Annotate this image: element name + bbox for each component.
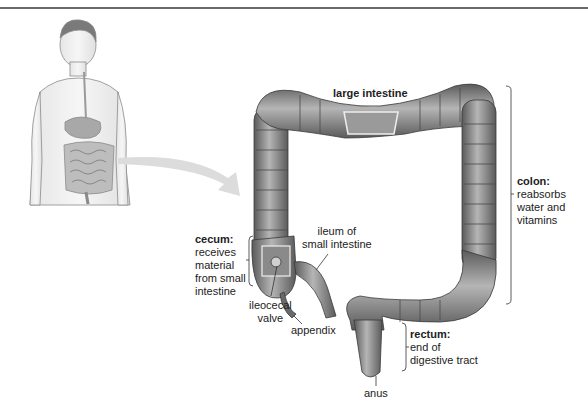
cecum-desc-2: material <box>195 259 246 272</box>
cecum-label: cecum: receives material from small inte… <box>195 233 246 298</box>
ileocecal-line-1: ileocecal <box>249 299 292 312</box>
cecum-desc-3: from small <box>195 272 246 285</box>
human-figure <box>30 20 130 205</box>
cecum-desc-1: receives <box>195 246 246 259</box>
rectum-desc-2: digestive tract <box>410 354 478 367</box>
ileocecal-valve-label: ileocecal valve <box>249 299 292 325</box>
cecum-term: cecum: <box>195 233 246 246</box>
appendix-label: appendix <box>291 324 336 337</box>
rectum-desc-1: end of <box>410 341 478 354</box>
ileocecal-line-2: valve <box>249 312 292 325</box>
colon-desc-1: reabsorbs <box>517 188 566 201</box>
rectum-term: rectum: <box>410 328 478 341</box>
colon-term: colon: <box>517 175 566 188</box>
colon-desc-3: vitamins <box>517 214 566 227</box>
ileum-line-2: small intestine <box>302 238 372 251</box>
pointer-arrow <box>118 157 240 196</box>
anus-label: anus <box>364 387 388 400</box>
rectum-label: rectum: end of digestive tract <box>410 328 478 367</box>
anatomy-illustration <box>0 0 588 417</box>
cecum-desc-4: intestine <box>195 285 246 298</box>
ileum-label: ileum of small intestine <box>302 225 372 251</box>
colon-desc-2: water and <box>517 201 566 214</box>
ileum-line-1: ileum of <box>302 225 372 238</box>
large-intestine-title: large intestine <box>333 87 408 100</box>
colon-label: colon: reabsorbs water and vitamins <box>517 175 566 227</box>
